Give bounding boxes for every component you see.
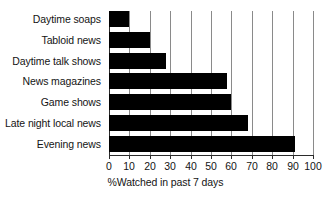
bar-evening-news (109, 136, 295, 152)
x-axis-title: %Watched in past 7 days (0, 176, 331, 188)
x-tick-0 (109, 155, 110, 159)
category-label-news-magazines: News magazines (22, 73, 101, 89)
bar-late-night-local-news (109, 115, 248, 131)
gridline-100 (313, 11, 314, 155)
x-tick-70 (252, 155, 253, 159)
bar-game-shows (109, 94, 231, 110)
category-label-tabloid-news: Tabloid news (41, 32, 101, 48)
x-tick-80 (272, 155, 273, 159)
gridline-70 (252, 11, 253, 155)
x-tick-20 (150, 155, 151, 159)
bar-daytime-talk-shows (109, 53, 166, 69)
x-tick-40 (191, 155, 192, 159)
gridline-60 (231, 11, 232, 155)
x-tick-90 (293, 155, 294, 159)
bar-daytime-soaps (109, 11, 129, 27)
category-axis-labels: Daytime soaps Tabloid news Daytime talk … (0, 11, 105, 155)
category-label-evening-news: Evening news (37, 136, 101, 152)
bar-news-magazines (109, 73, 227, 89)
x-tick-60 (231, 155, 232, 159)
x-tick-50 (211, 155, 212, 159)
gridline-90 (293, 11, 294, 155)
category-label-game-shows: Game shows (41, 94, 101, 110)
x-tick-label-100: 100 (300, 160, 326, 172)
plot-area (109, 11, 313, 155)
x-tick-30 (170, 155, 171, 159)
bar-tabloid-news (109, 32, 150, 48)
x-tick-10 (129, 155, 130, 159)
gridline-80 (272, 11, 273, 155)
bar-chart: Daytime soaps Tabloid news Daytime talk … (0, 0, 331, 198)
x-tick-100 (313, 155, 314, 159)
category-label-late-night-local-news: Late night local news (5, 115, 101, 131)
category-label-daytime-talk-shows: Daytime talk shows (12, 53, 101, 69)
category-label-daytime-soaps: Daytime soaps (33, 11, 101, 27)
